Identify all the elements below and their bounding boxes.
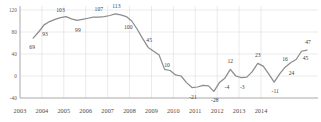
x-tick-label: 2009 [145,107,158,114]
x-tick-label: 2003 [14,107,27,114]
data-point-label: 69 [29,44,35,50]
x-tick-label: 2012 [211,107,224,114]
data-point-label: 100 [124,24,133,30]
data-point-label: -11 [271,88,278,94]
y-tick-label: 40 [0,51,17,57]
y-tick-label: 80 [0,29,17,35]
x-tick-label: 2006 [79,107,92,114]
y-tick-label: 120 [0,7,17,13]
data-point-label: -21 [189,94,197,100]
data-point-label: -4 [224,84,229,90]
data-series-line [33,14,307,92]
x-tick-label: 2004 [36,107,49,114]
data-point-label: 107 [95,6,104,12]
data-point-label: 113 [112,3,120,9]
data-point-label: 16 [282,56,288,62]
data-point-label: 23 [255,52,261,58]
data-point-label: 99 [75,27,81,33]
x-tick-label: 2011 [189,107,202,114]
data-point-label: 24 [289,70,295,76]
chart-axes [20,6,318,98]
y-tick-label: 0 [0,73,17,79]
data-point-label: 103 [56,7,65,13]
data-point-label: 12 [227,58,233,64]
chart-plot-area [0,0,321,122]
data-point-label: 47 [305,39,311,45]
x-tick-label: 2007 [101,107,114,114]
data-point-label: 93 [42,31,48,37]
data-point-label: -3 [240,84,245,90]
x-tick-label: 2005 [57,107,70,114]
x-tick-label: 2013 [233,107,246,114]
data-point-label: 10 [164,62,170,68]
y-tick-label: -40 [0,95,17,101]
x-tick-label: 2010 [167,107,180,114]
x-tick-label: 2014 [255,107,268,114]
horizontal-gridlines [20,10,318,98]
data-point-label: 45 [303,55,309,61]
line-chart: 12080400-40 2003200420052006200720082009… [0,0,321,122]
data-point-label: 45 [146,37,152,43]
data-point-label: -28 [211,97,219,103]
x-tick-label: 2008 [123,107,136,114]
